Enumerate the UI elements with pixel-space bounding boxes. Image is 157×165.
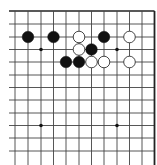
black-stone[interactable] xyxy=(48,31,60,43)
star-point-icon xyxy=(39,48,43,52)
black-stone[interactable] xyxy=(73,56,85,68)
white-stone[interactable] xyxy=(124,56,136,68)
black-stone[interactable] xyxy=(86,44,98,56)
go-board[interactable] xyxy=(0,0,157,165)
star-point-icon xyxy=(39,124,43,128)
white-stone[interactable] xyxy=(73,44,85,56)
white-stone[interactable] xyxy=(124,31,136,43)
white-stone[interactable] xyxy=(86,56,98,68)
black-stone[interactable] xyxy=(22,31,34,43)
star-point-icon xyxy=(115,124,119,128)
star-point-icon xyxy=(115,48,119,52)
white-stone[interactable] xyxy=(98,56,110,68)
white-stone[interactable] xyxy=(73,31,85,43)
black-stone[interactable] xyxy=(98,31,110,43)
black-stone[interactable] xyxy=(60,56,72,68)
